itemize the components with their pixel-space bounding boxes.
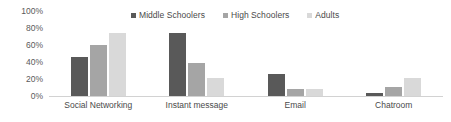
bar[interactable]	[366, 93, 383, 96]
bar[interactable]	[287, 89, 304, 96]
bar[interactable]	[188, 63, 205, 96]
x-axis-category-label: Social Networking	[49, 99, 148, 119]
bar-group	[345, 11, 444, 96]
y-axis-tick-label: 80%	[26, 24, 43, 33]
bar-chart: Middle SchoolersHigh SchoolersAdults 0%2…	[0, 0, 451, 122]
bar-group	[246, 11, 345, 96]
plot-area	[49, 11, 443, 96]
y-axis-tick-label: 40%	[26, 58, 43, 67]
y-axis-tick-label: 100%	[21, 7, 43, 16]
bar[interactable]	[404, 78, 421, 96]
bar-group	[49, 11, 148, 96]
bar[interactable]	[207, 78, 224, 96]
x-axis-category-label: Instant message	[148, 99, 247, 119]
x-axis-category-label: Email	[246, 99, 345, 119]
bar[interactable]	[268, 74, 285, 96]
bar[interactable]	[169, 33, 186, 96]
y-axis-tick-label: 20%	[26, 75, 43, 84]
y-axis: 0%20%40%60%80%100%	[0, 11, 46, 96]
bar[interactable]	[385, 87, 402, 96]
y-axis-tick-label: 0%	[31, 92, 43, 101]
bar[interactable]	[90, 45, 107, 96]
y-axis-tick-label: 60%	[26, 41, 43, 50]
bar[interactable]	[109, 33, 126, 96]
bar-group	[148, 11, 247, 96]
bar[interactable]	[306, 89, 323, 96]
bar[interactable]	[71, 57, 88, 96]
x-axis-category-labels: Social NetworkingInstant messageEmailCha…	[49, 99, 443, 119]
x-axis-category-label: Chatroom	[345, 99, 444, 119]
axis-baseline	[49, 96, 443, 97]
